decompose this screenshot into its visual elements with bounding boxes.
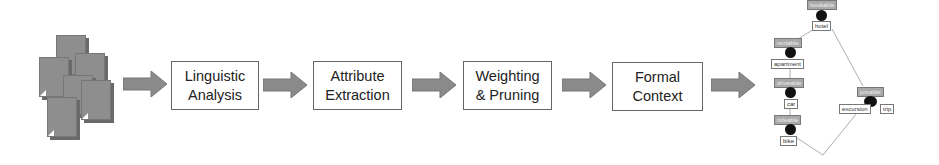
arrow-icon xyxy=(123,71,167,97)
lattice-object: hotel xyxy=(812,21,831,31)
lattice-object: apartment xyxy=(771,59,804,69)
step-label: Extraction xyxy=(325,86,389,105)
lattice-object: car xyxy=(784,99,798,109)
lattice-object: trip xyxy=(880,104,894,114)
lattice-attribute: bookable xyxy=(807,0,837,10)
lattice-object: bike xyxy=(780,136,797,146)
concept-node xyxy=(785,47,796,58)
lattice-object: excursion xyxy=(839,104,871,114)
arrow-icon xyxy=(562,72,606,98)
arrow-icon xyxy=(711,72,755,98)
step-formal-context: FormalContext xyxy=(612,62,703,111)
step-label: Context xyxy=(633,87,683,106)
step-linguistic-analysis: LinguisticAnalysis xyxy=(171,61,259,110)
step-label: & Pruning xyxy=(475,86,539,105)
concept-node xyxy=(785,124,796,135)
concept-lattice: bookable hotel rentable apartment drivea… xyxy=(760,0,939,165)
arrow-icon xyxy=(263,72,307,98)
step-label: Formal xyxy=(633,68,683,87)
arrow-icon xyxy=(412,72,456,98)
step-label: Analysis xyxy=(185,86,245,105)
step-weighting-pruning: Weighting& Pruning xyxy=(463,61,552,110)
step-label: Linguistic xyxy=(185,67,245,86)
concept-node xyxy=(816,10,827,21)
step-label: Attribute xyxy=(325,67,389,86)
step-attribute-extraction: AttributeExtraction xyxy=(313,61,402,110)
document-stack-icon xyxy=(35,35,120,145)
concept-node xyxy=(785,87,796,98)
step-label: Weighting xyxy=(475,67,539,86)
